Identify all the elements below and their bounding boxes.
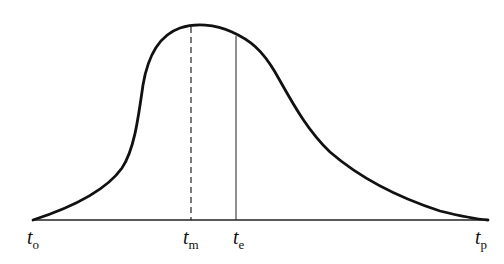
label-t-e: te [233, 226, 244, 253]
label-t-o: to [27, 226, 39, 253]
bell-curve [33, 25, 488, 220]
diagram: to tm te tp [0, 0, 504, 264]
label-t-p: tp [475, 226, 487, 253]
label-t-m: tm [183, 226, 199, 253]
curve-plot [0, 0, 504, 264]
